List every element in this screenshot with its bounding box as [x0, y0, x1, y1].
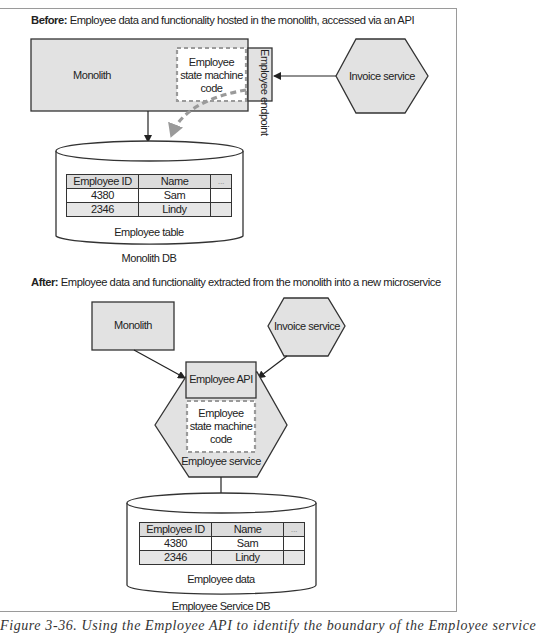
- table-row: 4380 Sam: [67, 189, 232, 203]
- after-state-machine-label: Employee state machine code: [187, 407, 255, 446]
- before-endpoint-label: Employee endpoint: [249, 49, 271, 101]
- after-employee-table: Employee ID Name ... 4380 Sam 2346 Lindy: [139, 522, 305, 565]
- table-row: 2346 Lindy: [67, 203, 232, 217]
- figure-caption: Figure 3-36. Using the Employee API to i…: [0, 618, 465, 634]
- before-heading-bold: Before:: [31, 14, 67, 26]
- table-header-row: Employee ID Name ...: [140, 523, 305, 537]
- after-invoice-to-api-arrow: [258, 356, 287, 378]
- after-db-label: Employee Service DB: [156, 600, 286, 613]
- after-heading: After: Employee data and functionality e…: [31, 276, 441, 288]
- table-row: 4380 Sam: [140, 537, 305, 551]
- before-invoice-label: Invoice service: [345, 70, 419, 83]
- col-header-name: Name: [139, 175, 211, 189]
- col-header-more: ...: [284, 523, 305, 537]
- after-db-top: [127, 493, 316, 513]
- before-heading-text: Employee data and functionality hosted i…: [67, 14, 414, 26]
- after-invoice-label: Invoice service: [270, 320, 344, 333]
- before-db-top: [56, 141, 243, 161]
- after-heading-bold: After:: [31, 276, 58, 288]
- col-header-name: Name: [212, 523, 284, 537]
- before-employee-table: Employee ID Name ... 4380 Sam 2346 Lindy: [66, 174, 232, 217]
- before-table-label: Employee table: [99, 226, 199, 239]
- employee-api-label: Employee API: [186, 373, 256, 386]
- after-heading-text: Employee data and functionality extracte…: [58, 276, 441, 288]
- col-header-more: ...: [211, 175, 232, 189]
- after-monolith-label: Monolith: [92, 319, 174, 332]
- col-header-employee-id: Employee ID: [140, 523, 212, 537]
- before-monolith-label: Monolith: [62, 69, 122, 82]
- after-monolith-to-api-arrow: [134, 350, 185, 378]
- before-db-label: Monolith DB: [99, 252, 199, 265]
- table-row: 2346 Lindy: [140, 551, 305, 565]
- table-header-row: Employee ID Name ...: [67, 175, 232, 189]
- before-state-machine-label: Employee state machine code: [177, 56, 246, 95]
- before-heading: Before: Employee data and functionality …: [31, 14, 414, 26]
- employee-service-label: Employee service: [171, 455, 271, 468]
- after-table-label: Employee data: [171, 573, 271, 586]
- col-header-employee-id: Employee ID: [67, 175, 139, 189]
